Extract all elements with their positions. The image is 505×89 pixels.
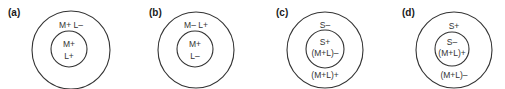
panel-label-d: (d) [402,7,415,18]
panel-a: (a) M+ L– M+ L+ [8,7,110,89]
center-text-a-2: L+ [64,51,74,61]
center-text-b-1: M+ [189,39,201,49]
panel-d: (d) S+ S– (M+L)+ (M+L)– [402,7,492,88]
center-text-c-2: (M+L)– [311,48,338,58]
bottom-text-c: (M+L)+ [311,70,338,80]
panel-b: (b) M– L+ M+ L– [149,7,234,88]
inner-circle-b [177,31,213,67]
center-text-d-1: S– [447,37,458,47]
center-text-b-2: L– [190,51,200,61]
surround-text-d: S+ [449,21,460,31]
panel-label-c: (c) [276,7,288,18]
panel-label-a: (a) [8,7,20,18]
center-text-d-2: (M+L)+ [438,48,465,58]
diagram-canvas: (a) M+ L– M+ L+ (b) M– L+ M+ L– (c) S– S… [0,0,505,89]
inner-circle-a [51,31,87,67]
panel-c: (c) S– S+ (M+L)– (M+L)+ [276,7,363,88]
panel-label-b: (b) [149,7,162,18]
surround-text-a: M+ L– [59,20,83,30]
bottom-text-d: (M+L)– [440,70,467,80]
surround-text-c: S– [320,20,331,30]
surround-text-b: M– L+ [184,20,208,30]
center-text-a-1: M+ [63,39,75,49]
center-text-c-1: S+ [320,37,331,47]
